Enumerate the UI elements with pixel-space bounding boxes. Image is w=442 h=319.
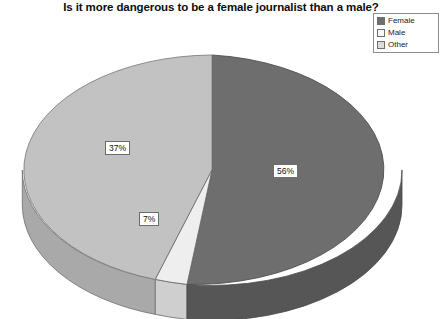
pie-side-male: [155, 279, 187, 319]
legend-label-male: Male: [388, 28, 405, 37]
legend-swatch-other-icon: [377, 41, 385, 49]
legend-label-other: Other: [388, 40, 408, 49]
pie-chart: Is it more dangerous to be a female jour…: [0, 0, 442, 319]
legend-label-female: Female: [388, 16, 415, 25]
pie-label-female: 56%: [273, 164, 298, 178]
legend-swatch-male-icon: [377, 29, 385, 37]
legend-item-other[interactable]: Other: [377, 39, 436, 50]
pie-label-male: 7%: [139, 212, 159, 226]
legend-item-female[interactable]: Female: [377, 15, 436, 26]
pie-label-other: 37%: [105, 141, 130, 155]
legend-swatch-female-icon: [377, 17, 385, 25]
chart-legend: Female Male Other: [373, 13, 439, 53]
legend-item-male[interactable]: Male: [377, 27, 436, 38]
